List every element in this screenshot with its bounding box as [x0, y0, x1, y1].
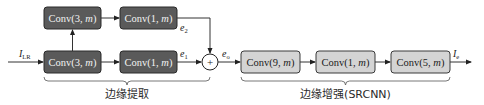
srcnn-conv1-block: Conv(1, m): [316, 51, 375, 73]
enhancement-group-label: 边缘增强(SRCNN): [300, 87, 391, 101]
e1-label: e1: [180, 48, 188, 60]
e2-label: e2: [180, 22, 188, 34]
bottom-conv3-block: Conv(3, m): [44, 51, 101, 73]
extraction-brace: [44, 77, 210, 85]
eo-label: eo: [222, 48, 230, 60]
srcnn-conv9-block: Conv(9, m): [241, 51, 300, 73]
svg-text:Conv(1, m): Conv(1, m): [125, 13, 173, 25]
svg-text:Conv(1, m): Conv(1, m): [125, 57, 173, 69]
enhancement-brace: [241, 77, 450, 85]
svg-text:Conv(3, m): Conv(3, m): [49, 13, 97, 25]
svg-text:Conv(1, m): Conv(1, m): [322, 57, 370, 69]
top-conv1-block: Conv(1, m): [120, 7, 177, 29]
extraction-group-label: 边缘提取: [105, 88, 149, 101]
input-label: ILR: [18, 48, 31, 60]
bottom-conv1-block: Conv(1, m): [120, 51, 177, 73]
svg-text:Conv(5, m): Conv(5, m): [397, 57, 445, 69]
svg-text:Conv(3, m): Conv(3, m): [49, 57, 97, 69]
svg-text:Conv(9, m): Conv(9, m): [247, 57, 295, 69]
sum-node: +: [202, 54, 218, 70]
top-conv3-block: Conv(3, m): [44, 7, 101, 29]
output-label: Ie: [452, 48, 459, 60]
plus-icon: +: [207, 56, 213, 68]
srcnn-conv5-block: Conv(5, m): [391, 51, 450, 73]
edge-network-diagram: ILR Conv(3, m) Conv(3, m) Conv(1, m) e2 …: [0, 0, 484, 105]
